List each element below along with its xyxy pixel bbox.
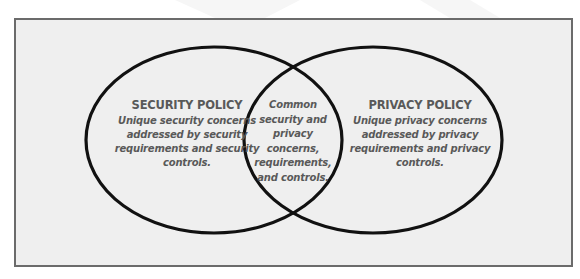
intersection-line-5: requirements, xyxy=(245,156,341,171)
intersection-line-6: and controls. xyxy=(245,171,341,186)
privacy-policy-line-4: controls. xyxy=(345,156,495,170)
intersection-line-4: concerns, xyxy=(245,142,341,157)
security-policy-line-1: Unique security concerns xyxy=(112,114,262,128)
intersection-line-2: security and xyxy=(245,113,341,128)
security-policy-label: SECURITY POLICY Unique security concerns… xyxy=(112,98,262,170)
security-policy-line-3: requirements and security xyxy=(112,142,262,156)
privacy-policy-line-1: Unique privacy concerns xyxy=(345,114,495,128)
privacy-policy-label: PRIVACY POLICY Unique privacy concerns a… xyxy=(345,98,495,170)
privacy-policy-line-3: requirements and privacy xyxy=(345,142,495,156)
privacy-policy-line-2: addressed by privacy xyxy=(345,128,495,142)
security-policy-line-2: addressed by security xyxy=(112,128,262,142)
security-policy-title: SECURITY POLICY xyxy=(112,98,262,113)
intersection-line-3: privacy xyxy=(245,127,341,142)
intersection-label: Common security and privacy concerns, re… xyxy=(245,98,341,185)
security-policy-line-4: controls. xyxy=(112,156,262,170)
intersection-line-1: Common xyxy=(245,98,341,113)
privacy-policy-title: PRIVACY POLICY xyxy=(345,98,495,113)
